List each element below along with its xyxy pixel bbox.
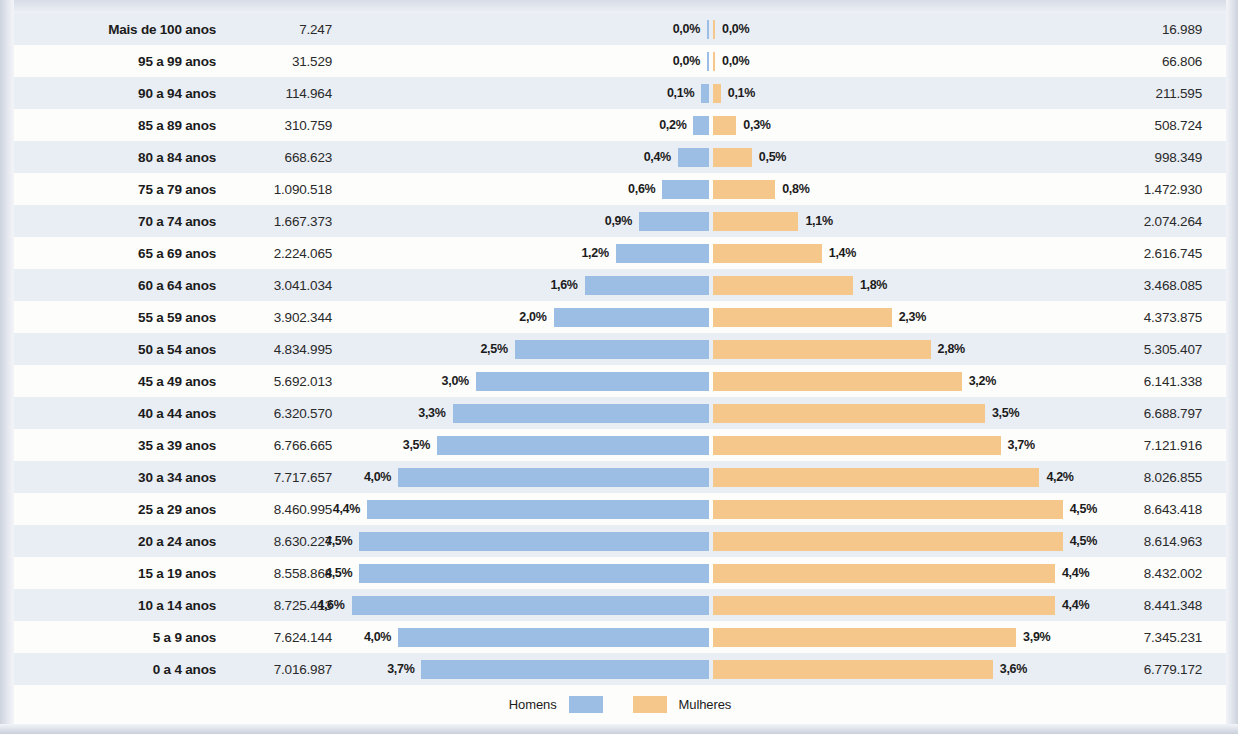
- male-half: 4,5%: [336, 557, 709, 589]
- male-bar: [367, 500, 709, 519]
- female-percent-label: 0,1%: [728, 86, 755, 100]
- male-count-value: 114.964: [226, 86, 336, 101]
- scan-edge-left: [0, 0, 14, 734]
- age-group-label: 50 a 54 anos: [14, 342, 226, 357]
- male-count-value: 8.630.227: [226, 534, 336, 549]
- male-percent-label: 3,7%: [387, 662, 414, 676]
- male-bar: [359, 564, 709, 583]
- pyramid-row: 40 a 44 anos6.320.5703,3%3,5%6.688.797: [14, 397, 1226, 429]
- female-half: 1,8%: [713, 269, 1086, 301]
- female-bar: [713, 404, 985, 423]
- pyramid-row: 90 a 94 anos114.9640,1%0,1%211.595: [14, 77, 1226, 109]
- male-half: 3,0%: [336, 365, 709, 397]
- chart-plate: Mais de 100 anos7.2470,0%0,0%16.98995 a …: [14, 13, 1226, 724]
- age-group-label: 65 a 69 anos: [14, 246, 226, 261]
- pyramid-row: 25 a 29 anos8.460.9954,4%4,5%8.643.418: [14, 493, 1226, 525]
- pyramid-row: 50 a 54 anos4.834.9952,5%2,8%5.305.407: [14, 333, 1226, 365]
- female-half: 0,1%: [713, 77, 1086, 109]
- female-bar: [713, 84, 721, 103]
- population-pyramid-page: Mais de 100 anos7.2470,0%0,0%16.98995 a …: [0, 0, 1238, 734]
- female-half: 4,4%: [713, 557, 1086, 589]
- age-group-label: 45 a 49 anos: [14, 374, 226, 389]
- male-percent-label: 0,9%: [605, 214, 632, 228]
- male-count-value: 4.834.995: [226, 342, 336, 357]
- female-percent-label: 4,4%: [1062, 566, 1089, 580]
- male-half: 0,1%: [336, 77, 709, 109]
- male-percent-label: 1,2%: [581, 246, 608, 260]
- female-half: 2,3%: [713, 301, 1086, 333]
- male-percent-label: 0,0%: [673, 54, 700, 68]
- female-half: 1,1%: [713, 205, 1086, 237]
- age-group-label: 5 a 9 anos: [14, 630, 226, 645]
- row-plot-area: 4,6%4,4%: [336, 589, 1048, 621]
- age-group-label: 85 a 89 anos: [14, 118, 226, 133]
- age-group-label: 10 a 14 anos: [14, 598, 226, 613]
- male-half: 4,5%: [336, 525, 709, 557]
- female-bar: [713, 116, 736, 135]
- female-bar: [713, 532, 1063, 551]
- female-percent-label: 4,2%: [1046, 470, 1073, 484]
- male-bar: [453, 404, 709, 423]
- row-plot-area: 0,9%1,1%: [336, 205, 1048, 237]
- female-half: 0,8%: [713, 173, 1086, 205]
- pyramid-row: 45 a 49 anos5.692.0133,0%3,2%6.141.338: [14, 365, 1226, 397]
- age-group-label: Mais de 100 anos: [14, 22, 226, 37]
- female-percent-label: 0,3%: [743, 118, 770, 132]
- male-bar: [678, 148, 709, 167]
- male-bar: [515, 340, 709, 359]
- female-half: 0,5%: [713, 141, 1086, 173]
- male-percent-label: 0,4%: [644, 150, 671, 164]
- age-group-label: 15 a 19 anos: [14, 566, 226, 581]
- row-plot-area: 4,5%4,5%: [336, 525, 1048, 557]
- row-plot-area: 4,5%4,4%: [336, 557, 1048, 589]
- age-group-label: 70 a 74 anos: [14, 214, 226, 229]
- male-half: 1,6%: [336, 269, 709, 301]
- pyramid-row: Mais de 100 anos7.2470,0%0,0%16.989: [14, 13, 1226, 45]
- male-count-value: 3.902.344: [226, 310, 336, 325]
- pyramid-row: 0 a 4 anos7.016.9873,7%3,6%6.779.172: [14, 653, 1226, 685]
- female-percent-label: 1,8%: [860, 278, 887, 292]
- male-percent-label: 4,5%: [325, 566, 352, 580]
- female-percent-label: 0,5%: [759, 150, 786, 164]
- female-bar: [713, 468, 1039, 487]
- female-percent-label: 3,6%: [1000, 662, 1027, 676]
- female-percent-label: 3,2%: [969, 374, 996, 388]
- male-bar: [437, 436, 709, 455]
- row-plot-area: 4,0%3,9%: [336, 621, 1048, 653]
- female-bar: [713, 276, 853, 295]
- female-half: 4,4%: [713, 589, 1086, 621]
- male-half: 0,9%: [336, 205, 709, 237]
- female-bar: [713, 20, 715, 39]
- female-bar: [713, 372, 962, 391]
- male-half: 0,4%: [336, 141, 709, 173]
- male-percent-label: 2,5%: [480, 342, 507, 356]
- pyramid-row: 5 a 9 anos7.624.1444,0%3,9%7.345.231: [14, 621, 1226, 653]
- pyramid-row: 35 a 39 anos6.766.6653,5%3,7%7.121.916: [14, 429, 1226, 461]
- male-bar: [707, 20, 709, 39]
- male-percent-label: 3,3%: [418, 406, 445, 420]
- male-half: 1,2%: [336, 237, 709, 269]
- female-bar: [713, 340, 931, 359]
- row-plot-area: 4,0%4,2%: [336, 461, 1048, 493]
- female-percent-label: 4,5%: [1070, 502, 1097, 516]
- age-group-label: 30 a 34 anos: [14, 470, 226, 485]
- female-half: 0,0%: [713, 13, 1086, 45]
- male-percent-label: 0,0%: [673, 22, 700, 36]
- row-plot-area: 0,6%0,8%: [336, 173, 1048, 205]
- female-bar: [713, 436, 1001, 455]
- male-count-value: 7.624.144: [226, 630, 336, 645]
- female-percent-label: 4,5%: [1070, 534, 1097, 548]
- row-plot-area: 4,4%4,5%: [336, 493, 1048, 525]
- female-percent-label: 2,8%: [938, 342, 965, 356]
- female-percent-label: 1,4%: [829, 246, 856, 260]
- pyramid-row: 85 a 89 anos310.7590,2%0,3%508.724: [14, 109, 1226, 141]
- female-percent-label: 0,0%: [722, 54, 749, 68]
- male-half: 2,0%: [336, 301, 709, 333]
- male-bar: [398, 628, 709, 647]
- chart-legend: Homens Mulheres: [14, 689, 1226, 719]
- female-percent-label: 0,0%: [722, 22, 749, 36]
- male-half: 2,5%: [336, 333, 709, 365]
- age-group-label: 95 a 99 anos: [14, 54, 226, 69]
- male-count-value: 7.247: [226, 22, 336, 37]
- female-percent-label: 4,4%: [1062, 598, 1089, 612]
